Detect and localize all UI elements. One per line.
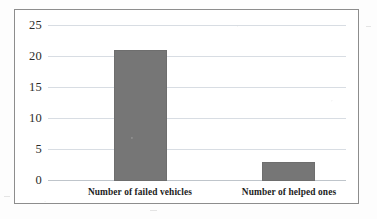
bar-number-of-helped-ones xyxy=(262,162,315,181)
ytick-label-20: 20 xyxy=(29,49,42,64)
ytick-label-15: 15 xyxy=(29,80,42,95)
ytick-label-10: 10 xyxy=(29,111,42,126)
category-label-helped-ones: Number of helped ones xyxy=(242,187,336,197)
chart-frame: 25 20 15 10 5 0 Number of failed vehicle… xyxy=(14,9,359,204)
bar-number-of-failed-vehicles xyxy=(114,50,167,181)
scan-speck xyxy=(4,196,10,197)
scanned-page-background: 25 20 15 10 5 0 Number of failed vehicle… xyxy=(0,0,377,219)
ytick-label-0: 0 xyxy=(36,173,42,188)
gridline-10: 10 xyxy=(48,118,346,119)
plot-area: 25 20 15 10 5 0 Number of failed vehicle… xyxy=(48,25,346,181)
scan-speck xyxy=(150,210,157,211)
gridline-25: 25 xyxy=(48,25,346,26)
ytick-label-5: 5 xyxy=(36,142,42,157)
gridline-20: 20 xyxy=(48,56,346,57)
gridline-15: 15 xyxy=(48,87,346,88)
gridline-5: 5 xyxy=(48,149,346,150)
category-label-failed-vehicles: Number of failed vehicles xyxy=(88,187,192,197)
scan-speck xyxy=(366,26,371,27)
ytick-label-25: 25 xyxy=(29,18,42,33)
